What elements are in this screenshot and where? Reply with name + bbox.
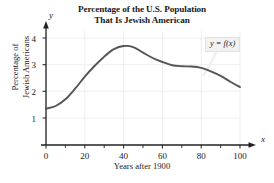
y-axis-variable-label: y [48,10,53,20]
y-axis-arrow [43,21,49,29]
y-axis [43,21,49,145]
x-tick-label-20: 20 [80,151,90,161]
x-axis [41,142,256,148]
x-tick-label-80: 80 [197,151,207,161]
y-tick-label-3: 3 [32,60,37,70]
x-axis-arrow [249,142,257,148]
x-tick-label-60: 60 [158,151,168,161]
y-tick-label-4: 4 [32,34,37,44]
y-tick-label-1: 1 [32,114,37,124]
plot-area: 4 3 2 1 0 20 40 60 80 100 y x [0,0,274,183]
y-tick-label-2: 2 [32,87,37,97]
function-legend-annotation: y = f(x) [205,37,240,52]
function-curve [46,46,240,109]
x-tick-label-40: 40 [119,151,129,161]
x-axis-variable-label: x [260,134,265,144]
chart-figure: Percentage of the U.S. Population That I… [0,0,274,183]
x-tick-label-0: 0 [44,151,49,161]
x-tick-label-100: 100 [233,151,247,161]
